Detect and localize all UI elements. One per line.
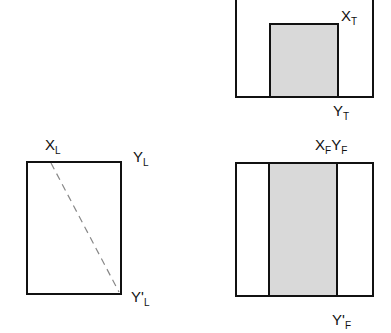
left-view (27, 162, 121, 294)
label-yl: YL (133, 149, 149, 168)
label-yt: YT (333, 103, 349, 122)
label-xl: XL (45, 137, 61, 156)
projection-diagram (0, 0, 391, 333)
front-view (236, 163, 373, 296)
label-yl-prime: Y'L (131, 289, 149, 308)
label-xt: XT (341, 8, 357, 27)
label-xf-yf: XFYF (315, 137, 347, 156)
label-yf-prime: Y'F (332, 312, 351, 331)
